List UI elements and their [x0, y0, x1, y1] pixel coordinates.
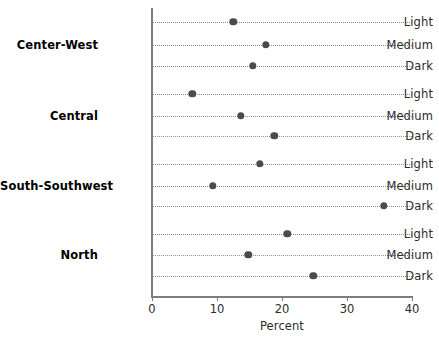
data-point	[262, 41, 269, 48]
dot-plot-chart: LightMediumDarkCenter-WestLightMediumDar…	[0, 0, 439, 341]
data-point	[270, 132, 277, 139]
region-label: North	[0, 248, 98, 262]
data-point	[256, 160, 263, 167]
shade-label-dark: Dark	[291, 59, 439, 73]
shade-label-light: Light	[291, 15, 439, 29]
x-tick-mark	[347, 296, 348, 301]
data-point	[283, 230, 290, 237]
x-tick-label: 10	[210, 302, 225, 316]
data-point	[230, 18, 237, 25]
x-tick-mark	[282, 296, 283, 301]
shade-label-dark: Dark	[291, 129, 439, 143]
x-tick-mark	[217, 296, 218, 301]
x-tick-label: 0	[148, 302, 155, 316]
x-tick-label: 20	[275, 302, 290, 316]
x-tick-label: 40	[405, 302, 420, 316]
data-point	[249, 62, 256, 69]
shade-label-dark: Dark	[291, 269, 439, 283]
shade-label-medium: Medium	[291, 38, 439, 52]
shade-label-medium: Medium	[291, 109, 439, 123]
data-point	[209, 182, 216, 189]
shade-label-medium: Medium	[291, 179, 439, 193]
shade-label-dark: Dark	[291, 199, 439, 213]
data-point	[237, 112, 244, 119]
shade-label-light: Light	[291, 87, 439, 101]
x-tick-mark	[412, 296, 413, 301]
data-point	[244, 251, 251, 258]
region-label: Central	[0, 109, 98, 123]
x-axis-title: Percent	[152, 319, 412, 333]
data-point	[189, 90, 196, 97]
x-tick-mark	[152, 296, 153, 301]
shade-label-light: Light	[291, 227, 439, 241]
shade-label-medium: Medium	[291, 248, 439, 262]
x-tick-label: 30	[340, 302, 355, 316]
region-label: Center-West	[0, 38, 98, 52]
shade-label-light: Light	[291, 157, 439, 171]
region-label: South-Southwest	[0, 179, 98, 193]
